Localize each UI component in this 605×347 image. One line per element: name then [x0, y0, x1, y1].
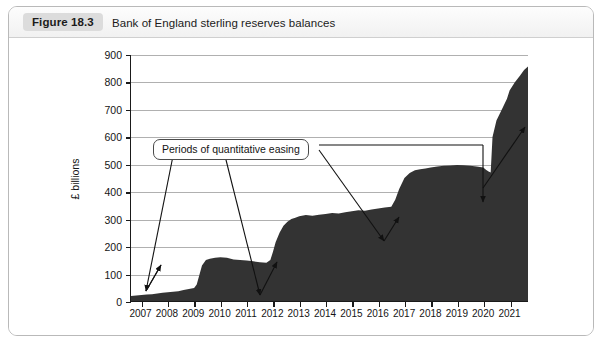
y-tick-label: 400: [82, 186, 122, 198]
x-tick-label: 2018: [419, 308, 441, 319]
figure-title: Bank of England sterling reserves balanc…: [112, 14, 335, 31]
x-tick-label: 2021: [498, 308, 520, 319]
figure-number-badge: Figure 18.3: [23, 13, 103, 31]
x-tick-label: 2014: [314, 308, 336, 319]
y-tick-label: 300: [82, 214, 122, 226]
x-tick-label: 2016: [367, 308, 389, 319]
chart-body: £ billions 0100200300400500600700800900 …: [9, 38, 593, 336]
x-tick-mark: [431, 302, 432, 307]
plot-area: [130, 55, 528, 302]
y-tick-label: 500: [82, 159, 122, 171]
annotation-label: Periods of quantitative easing: [153, 139, 309, 160]
x-tick-label: 2015: [340, 308, 362, 319]
x-tick-mark: [247, 302, 248, 307]
y-tick-label: 0: [82, 296, 122, 308]
x-tick-mark: [221, 302, 222, 307]
x-tick-label: 2013: [288, 308, 310, 319]
x-tick-mark: [273, 302, 274, 307]
x-tick-label: 2007: [129, 308, 151, 319]
figure-card: Figure 18.3 Bank of England sterling res…: [8, 6, 594, 336]
figure-header: Figure 18.3 Bank of England sterling res…: [9, 7, 593, 38]
x-tick-mark: [458, 302, 459, 307]
area-series: [131, 55, 528, 301]
y-tick-label: 100: [82, 269, 122, 281]
x-tick-mark: [194, 302, 195, 307]
x-tick-label: 2019: [446, 308, 468, 319]
y-tick-label: 700: [82, 104, 122, 116]
x-tick-mark: [300, 302, 301, 307]
y-tick-label: 800: [82, 76, 122, 88]
x-tick-mark: [326, 302, 327, 307]
y-tick-label: 200: [82, 241, 122, 253]
x-tick-mark: [484, 302, 485, 307]
y-tick-mark: [126, 302, 131, 303]
y-axis-label: £ billions: [69, 159, 81, 200]
x-tick-label: 2008: [156, 308, 178, 319]
x-tick-mark: [511, 302, 512, 307]
x-tick-mark: [405, 302, 406, 307]
x-tick-label: 2009: [182, 308, 204, 319]
x-tick-label: 2011: [235, 308, 257, 319]
x-tick-mark: [352, 302, 353, 307]
x-tick-mark: [142, 302, 143, 307]
x-tick-label: 2017: [393, 308, 415, 319]
x-tick-mark: [379, 302, 380, 307]
y-tick-label: 900: [82, 49, 122, 61]
x-tick-label: 2012: [261, 308, 283, 319]
x-tick-label: 2010: [208, 308, 230, 319]
y-tick-label: 600: [82, 131, 122, 143]
x-tick-mark: [168, 302, 169, 307]
x-tick-label: 2020: [472, 308, 494, 319]
